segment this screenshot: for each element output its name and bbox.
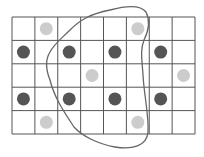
dark-dot	[63, 46, 76, 59]
light-dot	[131, 22, 144, 35]
dark-dot	[108, 92, 121, 105]
dark-dot	[154, 92, 167, 105]
diagram-canvas	[0, 0, 204, 157]
light-dot	[86, 69, 99, 82]
light-dot	[40, 116, 53, 129]
grid-lines	[12, 17, 195, 134]
dark-dot	[63, 92, 76, 105]
dark-dot	[154, 46, 167, 59]
light-dot	[177, 69, 190, 82]
dark-dot	[17, 92, 30, 105]
grid-diagram	[0, 0, 204, 157]
light-dot	[40, 22, 53, 35]
dark-dot	[17, 46, 30, 59]
light-dot	[131, 116, 144, 129]
dark-dot	[108, 46, 121, 59]
